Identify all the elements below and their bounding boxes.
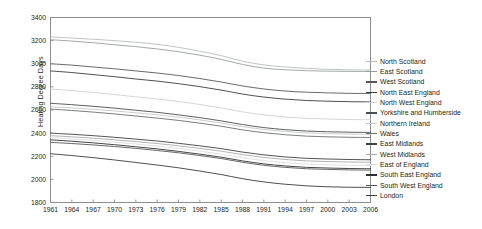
- legend-line-swatch: [366, 61, 377, 62]
- legend-item[interactable]: London: [366, 190, 482, 200]
- y-tick-label: 2000: [20, 176, 46, 183]
- legend-item[interactable]: East Midlands: [366, 139, 482, 149]
- legend-item-label: North West England: [380, 99, 442, 106]
- legend-line-swatch: [366, 71, 377, 72]
- legend-item[interactable]: South West England: [366, 180, 482, 190]
- legend-line-swatch: [366, 185, 377, 186]
- legend-item-label: West Midlands: [380, 151, 425, 158]
- legend-line-swatch: [366, 102, 377, 103]
- x-tick-label: 2006: [356, 206, 386, 213]
- legend-item[interactable]: Northern Ireland: [366, 118, 482, 128]
- legend-line-swatch: [366, 164, 377, 165]
- legend-line-swatch: [366, 133, 377, 134]
- legend-item[interactable]: West Midlands: [366, 149, 482, 159]
- chart-figure: Heating Degree Days 18002000220024002600…: [0, 0, 482, 229]
- legend-item[interactable]: North Scotland: [366, 56, 482, 66]
- legend-item[interactable]: Wales: [366, 128, 482, 138]
- legend-item-label: London: [380, 192, 403, 199]
- legend-line-swatch: [366, 154, 377, 155]
- y-tick-label: 2600: [20, 106, 46, 113]
- y-tick-label: 3200: [20, 37, 46, 44]
- legend-item[interactable]: East Scotland: [366, 66, 482, 76]
- legend-item[interactable]: North East England: [366, 87, 482, 97]
- legend-item-label: Yorkshire and Humberside: [380, 109, 461, 116]
- legend-item[interactable]: South East England: [366, 170, 482, 180]
- legend-item-label: Northern Ireland: [380, 120, 430, 127]
- legend-line-swatch: [366, 81, 377, 82]
- legend-line-swatch: [366, 195, 377, 196]
- legend-item-label: South West England: [380, 182, 443, 189]
- plot-area: Heating Degree Days 18002000220024002600…: [50, 17, 371, 203]
- legend-item[interactable]: North West England: [366, 97, 482, 107]
- legend-item[interactable]: West Scotland: [366, 77, 482, 87]
- legend-item-label: Wales: [380, 130, 399, 137]
- legend-item-label: East of England: [380, 161, 429, 168]
- legend-line-swatch: [366, 112, 377, 113]
- y-tick-label: 3000: [20, 60, 46, 67]
- legend-item[interactable]: Yorkshire and Humberside: [366, 108, 482, 118]
- y-tick-label: 3400: [20, 14, 46, 21]
- legend-line-swatch: [366, 143, 377, 144]
- legend-item-label: East Midlands: [380, 140, 423, 147]
- chart-legend: North ScotlandEast ScotlandWest Scotland…: [366, 56, 482, 201]
- legend-item-label: South East England: [380, 171, 441, 178]
- legend-line-swatch: [366, 123, 377, 124]
- legend-item-label: North East England: [380, 89, 440, 96]
- legend-line-swatch: [366, 92, 377, 93]
- legend-item-label: North Scotland: [380, 58, 426, 65]
- y-tick-label: 1800: [20, 199, 46, 206]
- plot-svg: [50, 17, 371, 203]
- legend-item[interactable]: East of England: [366, 159, 482, 169]
- y-tick-label: 2800: [20, 83, 46, 90]
- legend-item-label: West Scotland: [380, 78, 424, 85]
- y-tick-label: 2400: [20, 130, 46, 137]
- legend-line-swatch: [366, 174, 377, 175]
- legend-item-label: East Scotland: [380, 68, 423, 75]
- y-tick-label: 2200: [20, 153, 46, 160]
